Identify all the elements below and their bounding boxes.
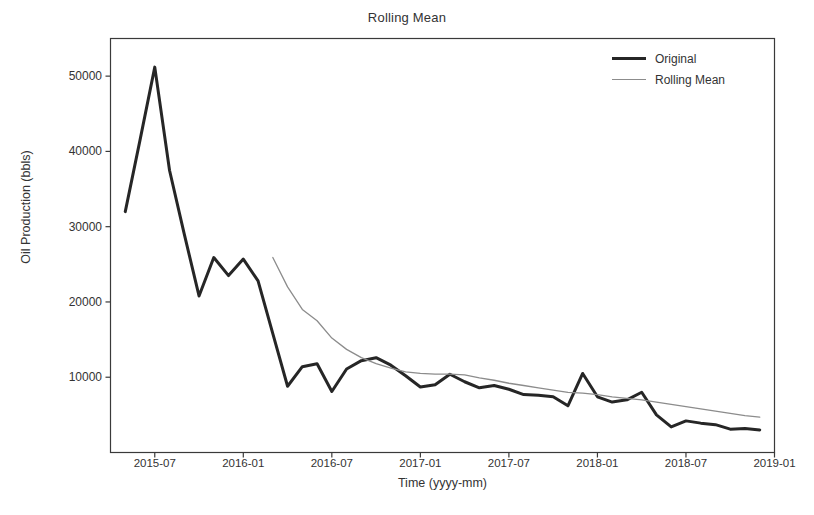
legend-line-rolling-mean-icon	[612, 79, 646, 80]
chart-figure: Rolling Mean Oil Production (bbls) Time …	[0, 0, 814, 515]
x-tick-label: 2016-07	[292, 457, 372, 469]
y-tick-marks	[106, 76, 111, 377]
y-tick-label: 50000	[42, 69, 102, 83]
series-line-original	[125, 67, 759, 430]
legend-line-original-icon	[612, 57, 646, 60]
y-axis-tick-labels: 1000020000300004000050000	[0, 0, 102, 515]
chart-legend: Original Rolling Mean	[612, 48, 762, 90]
x-axis-tick-labels: 2015-072016-012016-072017-012017-072018-…	[0, 457, 814, 481]
x-tick-label: 2017-01	[380, 457, 460, 469]
y-tick-label: 40000	[42, 144, 102, 158]
x-tick-label: 2015-07	[115, 457, 195, 469]
plot-frame	[111, 39, 775, 453]
x-tick-label: 2018-01	[557, 457, 637, 469]
legend-item-original: Original	[612, 48, 762, 69]
x-tick-label: 2017-07	[469, 457, 549, 469]
x-tick-label: 2018-07	[646, 457, 726, 469]
y-tick-label: 10000	[42, 370, 102, 384]
legend-label-rolling-mean: Rolling Mean	[655, 73, 725, 87]
data-series-layer	[125, 67, 759, 430]
x-tick-label: 2019-01	[735, 457, 814, 469]
legend-item-rolling-mean: Rolling Mean	[612, 69, 762, 90]
y-tick-label: 30000	[42, 220, 102, 234]
axes-frame	[111, 39, 775, 453]
y-tick-label: 20000	[42, 295, 102, 309]
legend-label-original: Original	[655, 52, 696, 66]
chart-title: Rolling Mean	[0, 10, 814, 25]
x-tick-label: 2016-01	[203, 457, 283, 469]
